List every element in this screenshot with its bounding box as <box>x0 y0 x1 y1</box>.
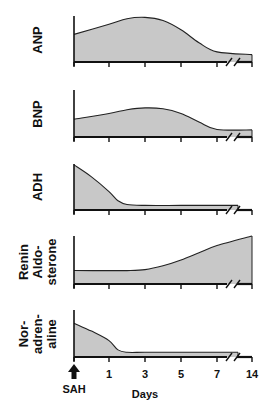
panel-label: Aldo- <box>30 245 45 278</box>
sah-label: SAH <box>62 383 85 395</box>
x-tick-label: 1 <box>106 368 112 380</box>
panel-label: Renin <box>16 244 31 280</box>
sah-arrow-icon <box>68 364 80 379</box>
panel-label: BNP <box>30 100 45 128</box>
area-fill <box>74 17 252 62</box>
panel-noradrenaline: Nor-adren-aline <box>16 310 252 362</box>
x-tick-label: 5 <box>178 368 184 380</box>
x-tick-label: 14 <box>246 368 259 380</box>
area-fill <box>74 165 238 210</box>
panel-bnp: BNP <box>30 90 252 142</box>
panel-renin-aldosterone: ReninAldo-sterone <box>16 236 252 289</box>
hormone-time-course-chart: ANPBNPADHReninAldo-steroneNor-adren-alin… <box>0 0 269 407</box>
panel-label: sterone <box>44 239 59 286</box>
panel-label: ADH <box>30 173 45 201</box>
area-fill <box>74 108 252 137</box>
panel-adh: ADH <box>30 164 252 215</box>
panel-label: ANP <box>30 26 45 54</box>
panel-anp: ANP <box>30 16 252 67</box>
x-axis-title: Days <box>132 388 158 400</box>
x-tick-labels: 135714 <box>106 368 259 380</box>
x-tick-label: 7 <box>214 368 220 380</box>
panel-label: adren- <box>30 314 45 354</box>
x-tick-label: 3 <box>142 368 148 380</box>
panel-label: aline <box>44 319 59 349</box>
panel-label: Nor- <box>16 321 31 348</box>
